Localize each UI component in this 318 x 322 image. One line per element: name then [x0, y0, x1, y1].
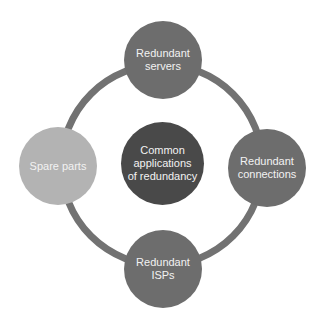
node-redundant-connections: Redundant connections — [228, 129, 306, 207]
node-label: Spare parts — [19, 160, 97, 173]
node-spare-parts: Spare parts — [19, 127, 97, 205]
node-redundant-servers: Redundant servers — [124, 21, 202, 99]
center-node: Common applications of redundancy — [121, 122, 204, 205]
node-redundant-isps: Redundant ISPs — [124, 230, 202, 308]
center-label: Common applications of redundancy — [124, 144, 202, 183]
node-label: Redundant servers — [129, 47, 197, 73]
redundancy-cycle-diagram: Redundant servers Redundant connections … — [0, 0, 318, 322]
node-label: Redundant ISPs — [129, 256, 197, 282]
node-label: Redundant connections — [228, 155, 306, 181]
